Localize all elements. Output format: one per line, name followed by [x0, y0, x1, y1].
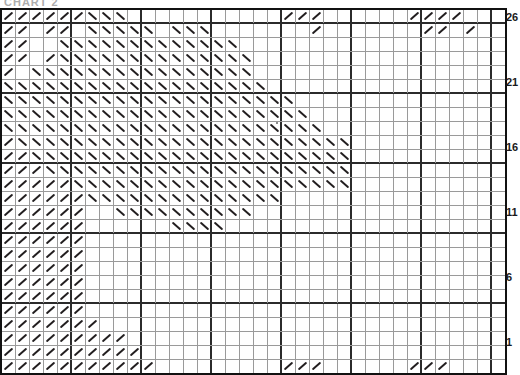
chart-cell[interactable] [324, 164, 338, 178]
chart-cell[interactable] [408, 262, 422, 276]
chart-cell[interactable] [156, 136, 170, 150]
chart-cell[interactable] [198, 94, 212, 108]
chart-cell[interactable] [338, 192, 352, 206]
chart-cell[interactable] [464, 276, 478, 290]
chart-cell[interactable] [296, 52, 310, 66]
chart-cell[interactable] [226, 80, 240, 94]
chart-cell[interactable] [254, 24, 268, 38]
chart-cell[interactable] [86, 290, 100, 304]
chart-cell[interactable] [184, 164, 198, 178]
chart-cell[interactable] [240, 108, 254, 122]
chart-cell[interactable] [324, 276, 338, 290]
chart-cell[interactable] [30, 206, 44, 220]
chart-cell[interactable] [240, 318, 254, 332]
chart-cell[interactable] [422, 122, 436, 136]
chart-cell[interactable] [86, 24, 100, 38]
chart-cell[interactable] [170, 10, 184, 24]
chart-cell[interactable] [72, 150, 86, 164]
chart-cell[interactable] [450, 304, 464, 318]
chart-cell[interactable] [86, 220, 100, 234]
chart-cell[interactable] [464, 38, 478, 52]
chart-cell[interactable] [366, 52, 380, 66]
chart-cell[interactable] [226, 360, 240, 374]
chart-cell[interactable] [296, 276, 310, 290]
chart-cell[interactable] [142, 318, 156, 332]
chart-cell[interactable] [268, 304, 282, 318]
chart-cell[interactable] [492, 192, 506, 206]
chart-cell[interactable] [58, 164, 72, 178]
chart-cell[interactable] [44, 94, 58, 108]
chart-cell[interactable] [436, 234, 450, 248]
chart-cell[interactable] [156, 150, 170, 164]
chart-cell[interactable] [324, 360, 338, 374]
chart-cell[interactable] [156, 248, 170, 262]
chart-cell[interactable] [310, 332, 324, 346]
chart-cell[interactable] [44, 122, 58, 136]
chart-cell[interactable] [380, 332, 394, 346]
chart-cell[interactable] [100, 66, 114, 80]
chart-cell[interactable] [254, 346, 268, 360]
chart-cell[interactable] [310, 304, 324, 318]
chart-cell[interactable] [268, 24, 282, 38]
chart-cell[interactable] [240, 150, 254, 164]
chart-cell[interactable] [226, 346, 240, 360]
chart-cell[interactable] [436, 122, 450, 136]
chart-cell[interactable] [128, 150, 142, 164]
chart-cell[interactable] [198, 332, 212, 346]
chart-cell[interactable] [2, 206, 16, 220]
chart-cell[interactable] [2, 80, 16, 94]
chart-cell[interactable] [394, 234, 408, 248]
chart-cell[interactable] [156, 38, 170, 52]
chart-cell[interactable] [240, 122, 254, 136]
chart-cell[interactable] [338, 122, 352, 136]
chart-cell[interactable] [100, 220, 114, 234]
chart-cell[interactable] [254, 52, 268, 66]
chart-cell[interactable] [240, 206, 254, 220]
chart-cell[interactable] [16, 80, 30, 94]
chart-cell[interactable] [324, 38, 338, 52]
chart-cell[interactable] [450, 360, 464, 374]
chart-cell[interactable] [422, 136, 436, 150]
chart-cell[interactable] [352, 318, 366, 332]
chart-cell[interactable] [492, 178, 506, 192]
chart-cell[interactable] [408, 248, 422, 262]
chart-cell[interactable] [72, 66, 86, 80]
chart-cell[interactable] [226, 122, 240, 136]
chart-cell[interactable] [30, 276, 44, 290]
chart-cell[interactable] [492, 304, 506, 318]
chart-cell[interactable] [114, 262, 128, 276]
chart-cell[interactable] [352, 332, 366, 346]
chart-cell[interactable] [30, 150, 44, 164]
chart-cell[interactable] [296, 346, 310, 360]
chart-cell[interactable] [352, 360, 366, 374]
chart-cell[interactable] [492, 206, 506, 220]
chart-cell[interactable] [128, 234, 142, 248]
chart-cell[interactable] [2, 220, 16, 234]
chart-cell[interactable] [212, 108, 226, 122]
chart-cell[interactable] [142, 178, 156, 192]
chart-cell[interactable] [212, 290, 226, 304]
chart-cell[interactable] [114, 346, 128, 360]
chart-cell[interactable] [422, 318, 436, 332]
chart-cell[interactable] [100, 206, 114, 220]
chart-cell[interactable] [16, 262, 30, 276]
chart-cell[interactable] [100, 248, 114, 262]
chart-cell[interactable] [296, 164, 310, 178]
chart-cell[interactable] [142, 122, 156, 136]
chart-cell[interactable] [296, 38, 310, 52]
chart-cell[interactable] [72, 262, 86, 276]
chart-cell[interactable] [324, 234, 338, 248]
chart-cell[interactable] [226, 234, 240, 248]
chart-cell[interactable] [128, 178, 142, 192]
chart-cell[interactable] [142, 108, 156, 122]
chart-cell[interactable] [408, 276, 422, 290]
chart-cell[interactable] [114, 360, 128, 374]
chart-cell[interactable] [338, 94, 352, 108]
chart-cell[interactable] [128, 318, 142, 332]
chart-cell[interactable] [436, 332, 450, 346]
chart-cell[interactable] [44, 192, 58, 206]
chart-cell[interactable] [394, 220, 408, 234]
chart-cell[interactable] [338, 248, 352, 262]
chart-cell[interactable] [464, 150, 478, 164]
chart-cell[interactable] [184, 24, 198, 38]
